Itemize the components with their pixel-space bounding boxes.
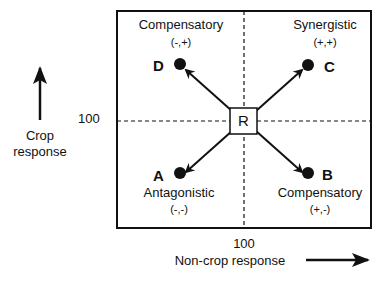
quadrant-c-name: Synergistic — [280, 17, 370, 32]
arrow-to-d — [186, 70, 232, 111]
y-reference-value: 100 — [78, 111, 100, 126]
y-axis-label-line1: Crop — [2, 128, 78, 143]
arrow-to-c — [256, 70, 302, 111]
quadrant-b-name: Compensatory — [265, 185, 375, 200]
quadrant-d-name: Compensatory — [126, 17, 236, 32]
y-axis-label-line2: response — [2, 144, 78, 159]
point-d-dot — [174, 58, 186, 70]
quadrant-a-signs: (-,-) — [124, 203, 234, 215]
r-label: R — [230, 113, 257, 128]
arrow-to-a — [186, 131, 232, 172]
point-a-label: A — [153, 167, 164, 184]
x-axis-label: Non-crop response — [160, 253, 300, 268]
quadrant-b-signs: (+,-) — [265, 203, 375, 215]
point-c-dot — [302, 59, 314, 71]
point-b-dot — [302, 167, 314, 179]
quadrant-a-name: Antagonistic — [124, 185, 234, 200]
quadrant-d-signs: (-,+) — [126, 36, 236, 48]
quadrant-c-signs: (+,+) — [280, 36, 370, 48]
x-reference-value: 100 — [224, 236, 264, 251]
point-a-dot — [174, 167, 186, 179]
point-d-label: D — [153, 57, 164, 74]
point-c-label: C — [324, 58, 335, 75]
arrow-to-b — [256, 131, 302, 172]
point-b-label: B — [322, 166, 333, 183]
